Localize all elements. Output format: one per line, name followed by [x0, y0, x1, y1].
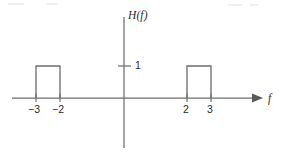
x-tick-label-pos2: 2 [183, 104, 189, 115]
x-axis-arrowhead [252, 94, 263, 103]
y-tick-label-1: 1 [135, 60, 141, 71]
y-axis-label: H(f) [128, 10, 148, 22]
x-axis-label: f [268, 93, 271, 105]
x-tick-label-neg3: −3 [28, 104, 40, 115]
pulse-negative-band [36, 66, 60, 98]
plot-area [0, 0, 283, 155]
pulse-positive-band [187, 66, 211, 98]
x-tick-label-neg2: −2 [52, 104, 64, 115]
figure-canvas: H(f) 1 f −3 −2 2 3 [0, 0, 283, 155]
x-tick-label-pos3: 3 [207, 104, 213, 115]
